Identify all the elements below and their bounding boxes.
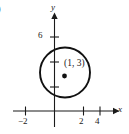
circle-shape <box>40 48 90 98</box>
x-tick-label-2: 2 <box>79 117 84 126</box>
x-tick-label-minus2: −2 <box>18 117 28 126</box>
y-axis-label: y <box>51 3 55 12</box>
figure-container: ) y x 6 −2 2 4 (1, 3) <box>0 0 129 134</box>
y-tick-label-6: 6 <box>38 31 43 40</box>
center-point-annotation: (1, 3) <box>64 59 85 69</box>
center-point-marker <box>62 74 67 79</box>
y-axis <box>51 13 57 128</box>
x-axis-label: x <box>118 105 122 114</box>
y-axis-arrow-icon <box>51 13 57 20</box>
x-axis <box>13 108 120 114</box>
x-tick-label-4: 4 <box>95 117 100 126</box>
panel-label: ) <box>0 3 1 14</box>
